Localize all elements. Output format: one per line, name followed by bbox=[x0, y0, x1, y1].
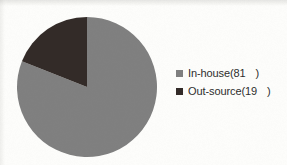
legend-swatch-out-source bbox=[176, 88, 183, 95]
legend-label-out-source-close: ) bbox=[267, 85, 271, 97]
legend-label-in-house-text: In-house(81 bbox=[188, 67, 246, 79]
pie-chart bbox=[17, 17, 157, 157]
pie-chart-svg bbox=[17, 17, 157, 157]
legend-swatch-in-house bbox=[176, 70, 183, 77]
legend-label-out-source: Out-source(19) bbox=[188, 85, 271, 97]
chart-legend: In-house(81) Out-source(19) bbox=[176, 64, 284, 100]
legend-item-out-source: Out-source(19) bbox=[176, 82, 284, 100]
legend-label-in-house: In-house(81) bbox=[188, 67, 259, 79]
legend-label-out-source-text: Out-source(19 bbox=[188, 85, 257, 97]
legend-item-in-house: In-house(81) bbox=[176, 64, 284, 82]
legend-label-in-house-close: ) bbox=[256, 67, 260, 79]
chart-figure: In-house(81) Out-source(19) bbox=[0, 0, 287, 165]
